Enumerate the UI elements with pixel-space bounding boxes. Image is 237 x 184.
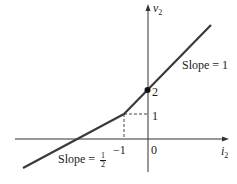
x-axis-label: i2 [221, 145, 228, 157]
slope-lower-label: Slope = 12 [58, 152, 106, 169]
intercept-dot [145, 87, 151, 93]
slope-upper-label: Slope = 1 [182, 59, 228, 71]
x-axis-arrow-icon [222, 137, 229, 142]
slope-lower-fraction: 12 [100, 152, 106, 169]
x-tick-neg1: −1 [113, 144, 126, 156]
y-tick-2: 2 [152, 86, 158, 98]
y-tick-1: 1 [152, 110, 158, 122]
y-axis-arrow-icon [146, 4, 151, 11]
x-tick-0: 0 [151, 144, 157, 156]
y-axis-label: v2 [153, 2, 162, 14]
